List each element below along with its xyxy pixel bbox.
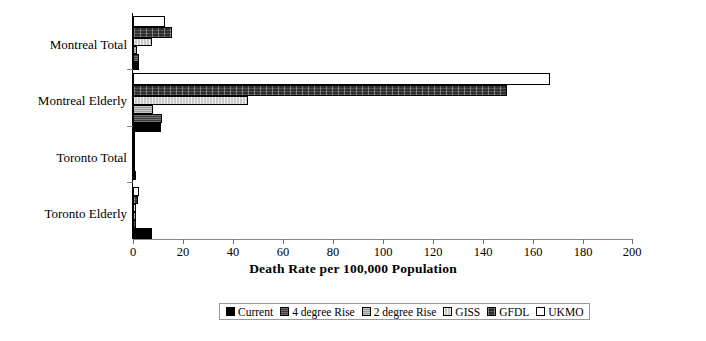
bar-montreal-total-4-degree-rise <box>133 54 139 62</box>
category-label-montreal-total: Montreal Total <box>3 37 127 52</box>
legend-label-4-degree-rise: 4 degree Rise <box>292 306 355 318</box>
bar-toronto-elderly-4-degree-rise <box>133 220 136 228</box>
legend-item-current: Current <box>226 306 273 318</box>
x-tick-label-120: 120 <box>413 245 453 259</box>
bar-toronto-total-2-degree-rise <box>133 155 135 163</box>
legend-swatch-4-degree-rise-icon <box>280 307 289 316</box>
bar-toronto-total-giss <box>133 147 135 155</box>
x-tick-label-140: 140 <box>463 245 503 259</box>
bar-toronto-total-current <box>133 171 136 180</box>
legend-label-giss: GISS <box>455 306 480 318</box>
bar-montreal-total-2-degree-rise <box>133 46 137 54</box>
x-tick-label-200: 200 <box>612 245 652 259</box>
x-tick-label-40: 40 <box>213 245 253 259</box>
bar-montreal-total-ukmo <box>133 16 165 27</box>
y-axis-group-tick <box>127 182 133 183</box>
legend-item-giss: GISS <box>443 306 480 318</box>
category-label-montreal-elderly: Montreal Elderly <box>3 93 127 108</box>
x-tick-label-160: 160 <box>513 245 553 259</box>
legend-label-current: Current <box>238 306 273 318</box>
bar-montreal-elderly-giss <box>133 96 248 105</box>
bar-toronto-total-gfdl <box>133 139 135 147</box>
x-tick-label-80: 80 <box>313 245 353 259</box>
bar-toronto-elderly-current <box>133 228 152 239</box>
bar-montreal-total-current <box>133 62 139 70</box>
x-axis-title: Death Rate per 100,000 Population <box>0 261 706 277</box>
x-tick-label-180: 180 <box>563 245 603 259</box>
x-tick-label-20: 20 <box>163 245 203 259</box>
bar-toronto-elderly-2-degree-rise <box>133 212 136 220</box>
bar-montreal-elderly-gfdl <box>133 85 507 96</box>
legend-swatch-2-degree-rise-icon <box>362 307 371 316</box>
legend-swatch-ukmo-icon <box>536 307 545 316</box>
legend-swatch-current-icon <box>226 307 235 316</box>
bar-toronto-elderly-giss <box>133 204 136 212</box>
bar-toronto-elderly-ukmo <box>133 187 139 196</box>
bar-montreal-elderly-ukmo <box>133 73 550 85</box>
legend-label-ukmo: UKMO <box>548 306 583 318</box>
bar-montreal-total-giss <box>133 38 152 46</box>
legend-item-4-degree-rise: 4 degree Rise <box>280 306 355 318</box>
bar-montreal-elderly-current <box>133 123 161 132</box>
legend-label-2-degree-rise: 2 degree Rise <box>374 306 437 318</box>
legend-item-ukmo: UKMO <box>536 306 583 318</box>
x-tick-label-60: 60 <box>263 245 303 259</box>
legend-item-gfdl: GFDL <box>487 306 529 318</box>
bar-montreal-elderly-2-degree-rise <box>133 105 153 114</box>
legend-swatch-giss-icon <box>443 307 452 316</box>
legend-item-2-degree-rise: 2 degree Rise <box>362 306 437 318</box>
bar-chart: Montreal Total Montreal Elderly Toronto … <box>0 0 706 341</box>
bar-toronto-total-ukmo <box>133 131 135 139</box>
legend-swatch-gfdl-icon <box>487 307 496 316</box>
category-label-toronto-elderly: Toronto Elderly <box>3 206 127 221</box>
x-tick-label-0: 0 <box>113 245 153 259</box>
chart-legend: Current 4 degree Rise 2 degree Rise GISS… <box>219 303 590 320</box>
bar-toronto-total-4-degree-rise <box>133 163 135 171</box>
category-label-toronto-total: Toronto Total <box>3 150 127 165</box>
bar-toronto-elderly-gfdl <box>133 196 138 204</box>
legend-label-gfdl: GFDL <box>499 306 529 318</box>
bar-montreal-elderly-4-degree-rise <box>133 114 162 123</box>
x-tick-label-100: 100 <box>363 245 403 259</box>
bar-montreal-total-gfdl <box>133 27 172 38</box>
